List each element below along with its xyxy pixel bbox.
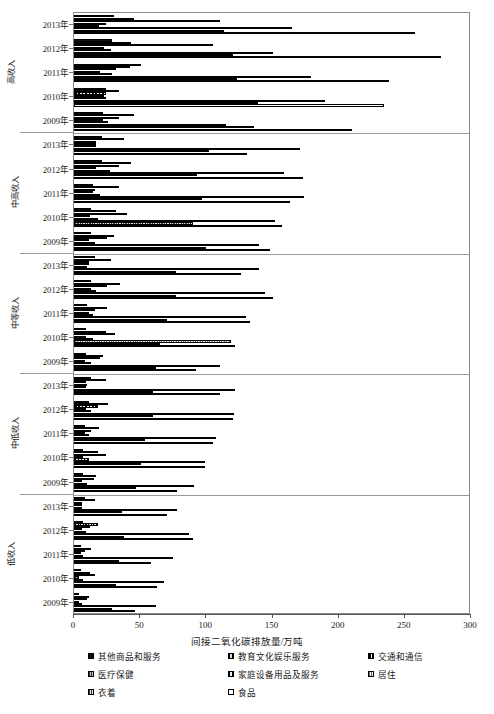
legend-swatch-icon xyxy=(228,689,234,695)
y-axis-year-label: 2013年 xyxy=(25,500,69,512)
y-axis-tick xyxy=(69,385,73,386)
y-axis-year-label: 2009年 xyxy=(25,235,69,247)
y-axis-tick xyxy=(69,217,73,218)
y-axis-year-label: 2010年 xyxy=(25,451,69,463)
y-axis-tick xyxy=(69,409,73,410)
income-group-label-text: 中高收入 xyxy=(0,177,76,209)
y-axis-tick xyxy=(69,144,73,145)
income-group-label: 高收入 xyxy=(0,12,20,132)
legend-item-教育文化娱乐服务[interactable]: 教育文化娱乐服务 xyxy=(228,650,310,662)
bar-食品-中等收入-2011年 xyxy=(74,321,250,323)
legend-item-食品[interactable]: 食品 xyxy=(228,686,256,698)
x-axis-tick xyxy=(404,614,405,618)
year-cluster xyxy=(74,422,469,446)
income-group-label-text: 高收入 xyxy=(0,60,72,84)
year-cluster xyxy=(74,85,469,109)
income-group-label: 低收入 xyxy=(0,494,20,614)
income-group-block xyxy=(74,133,469,253)
x-axis-title: 间接二氧化碳排放量/万吨 xyxy=(0,634,494,648)
income-group-label: 中等收入 xyxy=(0,253,20,373)
group-label-divider xyxy=(20,253,73,254)
income-group-block xyxy=(74,495,469,614)
legend-item-交通和通信[interactable]: 交通和通信 xyxy=(368,650,423,662)
legend-item-衣着[interactable]: 衣着 xyxy=(88,686,116,698)
bar-食品-中低收入-2011年 xyxy=(74,442,213,444)
income-group-block xyxy=(74,13,469,133)
year-cluster xyxy=(74,374,469,398)
bar-食品-高收入-2012年 xyxy=(74,56,441,58)
y-axis-tick xyxy=(69,602,73,603)
legend-swatch-icon xyxy=(228,653,234,659)
bar-食品-中高收入-2009年 xyxy=(74,249,270,251)
legend-item-医疗保健[interactable]: 医疗保健 xyxy=(88,668,134,680)
y-axis-tick xyxy=(69,578,73,579)
x-axis-tick-label: 250 xyxy=(397,620,411,630)
legend-item-label: 医疗保健 xyxy=(98,668,134,680)
x-axis-tick xyxy=(272,614,273,618)
y-axis-year-label: 2013年 xyxy=(25,18,69,30)
bar-食品-高收入-2011年 xyxy=(74,80,389,82)
group-label-divider xyxy=(20,373,73,374)
y-axis-tick xyxy=(69,457,73,458)
legend-item-居住[interactable]: 居住 xyxy=(368,668,396,680)
y-axis-year-label: 2013年 xyxy=(25,379,69,391)
income-group-block xyxy=(74,374,469,494)
y-axis-tick xyxy=(69,48,73,49)
x-axis-tick xyxy=(73,614,74,618)
y-axis-year-label: 2012年 xyxy=(25,42,69,54)
bar-食品-中低收入-2012年 xyxy=(74,418,233,420)
year-cluster xyxy=(74,182,469,206)
x-axis-tick xyxy=(338,614,339,618)
y-axis-year-label: 2012年 xyxy=(25,163,69,175)
legend-item-label: 衣着 xyxy=(98,686,116,698)
year-cluster xyxy=(74,133,469,157)
group-label-divider xyxy=(20,494,73,495)
year-cluster xyxy=(74,591,469,614)
bar-食品-低收入-2012年 xyxy=(74,538,193,540)
bar-食品-低收入-2013年 xyxy=(74,514,167,516)
y-axis-year-label: 2009年 xyxy=(25,355,69,367)
year-cluster xyxy=(74,567,469,591)
x-axis-tick-label: 50 xyxy=(135,620,144,630)
bar-食品-中等收入-2010年 xyxy=(74,345,235,347)
y-axis-tick xyxy=(69,506,73,507)
year-cluster xyxy=(74,206,469,230)
chart-figure: 050100150200250300 间接二氧化碳排放量/万吨 其他商品和服务教… xyxy=(0,0,494,714)
y-axis-tick xyxy=(69,24,73,25)
bar-食品-中等收入-2009年 xyxy=(74,369,196,371)
y-axis-tick xyxy=(69,96,73,97)
legend-item-label: 食品 xyxy=(238,686,256,698)
legend-item-其他商品和服务[interactable]: 其他商品和服务 xyxy=(88,650,161,662)
legend-swatch-icon xyxy=(368,653,374,659)
y-axis-tick xyxy=(69,241,73,242)
chart-legend: 其他商品和服务教育文化娱乐服务交通和通信医疗保健家庭设备用品及服务居住衣着食品 xyxy=(0,650,494,708)
y-axis-year-label: 2012年 xyxy=(25,283,69,295)
bar-食品-中等收入-2012年 xyxy=(74,297,273,299)
y-axis-year-label: 2013年 xyxy=(25,259,69,271)
year-cluster xyxy=(74,326,469,350)
x-axis-tick-label: 300 xyxy=(463,620,477,630)
x-axis-tick xyxy=(139,614,140,618)
year-cluster xyxy=(74,302,469,326)
y-axis-tick xyxy=(69,337,73,338)
year-cluster xyxy=(74,543,469,567)
x-axis-tick xyxy=(205,614,206,618)
year-cluster xyxy=(74,37,469,61)
year-cluster xyxy=(74,278,469,302)
year-cluster xyxy=(74,109,469,133)
y-axis-year-label: 2009年 xyxy=(25,596,69,608)
legend-item-label: 家庭设备用品及服务 xyxy=(238,668,319,680)
income-group-label: 中高收入 xyxy=(0,132,20,252)
x-axis-tick xyxy=(470,614,471,618)
legend-item-家庭设备用品及服务[interactable]: 家庭设备用品及服务 xyxy=(228,668,319,680)
y-axis-year-label: 2009年 xyxy=(25,114,69,126)
group-label-divider xyxy=(20,132,73,133)
bar-食品-低收入-2011年 xyxy=(74,562,151,564)
plot-area xyxy=(73,12,470,614)
year-cluster xyxy=(74,398,469,422)
bar-食品-低收入-2010年 xyxy=(74,586,157,588)
bar-食品-中高收入-2012年 xyxy=(74,177,303,179)
bar-食品-中等收入-2013年 xyxy=(74,273,241,275)
income-group-label-text: 中等收入 xyxy=(0,297,76,329)
legend-item-label: 教育文化娱乐服务 xyxy=(238,650,310,662)
